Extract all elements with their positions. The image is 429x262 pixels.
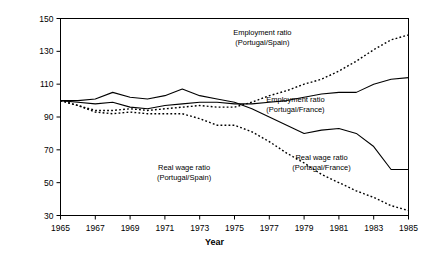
x-tick-label: 1979 <box>295 223 314 233</box>
employment-portugal-spain-label-line1: Employment ratio <box>233 28 291 37</box>
x-tick-label: 1975 <box>225 223 244 233</box>
x-tick-label: 1977 <box>260 223 279 233</box>
x-tick-label: 1983 <box>364 223 383 233</box>
y-tick-label: 150 <box>39 14 53 24</box>
line-chart-plot: 30507090110130150 1965196719691971197319… <box>0 0 429 262</box>
realwage-portugal-france-label-line1: Real wage ratio <box>295 153 347 162</box>
y-tick-label: 110 <box>40 79 54 89</box>
x-tick-label: 1985 <box>399 223 418 233</box>
realwage-portugal-france-label: Real wage ratio(Portugal/France) <box>292 153 351 172</box>
y-tick-label: 70 <box>44 145 54 155</box>
employment-portugal-spain-label-line2: (Portugal/Spain) <box>235 38 290 47</box>
employment-portugal-france-label-line2: (Portugal/France) <box>266 105 325 114</box>
chart-figure: Ratio (1965 = 100) 30507090110130150 196… <box>0 0 429 262</box>
employment-portugal-spain-label: Employment ratio(Portugal/Spain) <box>233 28 291 47</box>
y-tick-label: 30 <box>44 211 54 221</box>
employment-portugal-france-label: Employment ratio(Portugal/France) <box>266 95 325 114</box>
realwage-portugal-france-label-line2: (Portugal/France) <box>292 163 351 172</box>
y-tick-label: 50 <box>44 178 54 188</box>
x-tick-label: 1981 <box>329 223 348 233</box>
x-tick-label: 1969 <box>121 223 140 233</box>
realwage-portugal-spain-label: Real wage ratio(Portugal/Spain) <box>157 163 212 182</box>
x-tick-label: 1965 <box>51 223 70 233</box>
y-tick-label: 130 <box>39 46 53 56</box>
x-tick-label: 1973 <box>190 223 209 233</box>
x-axis-title: Year <box>0 237 429 247</box>
x-tick-label: 1967 <box>86 223 105 233</box>
realwage-portugal-spain-label-line1: Real wage ratio <box>158 163 210 172</box>
x-tick-label: 1971 <box>155 223 174 233</box>
y-tick-label: 90 <box>44 112 54 122</box>
realwage-portugal-spain-label-line2: (Portugal/Spain) <box>157 173 212 182</box>
employment-portugal-france-label-line1: Employment ratio <box>266 95 324 104</box>
